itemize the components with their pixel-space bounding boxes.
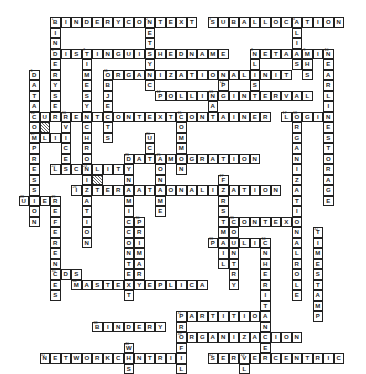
crossword-cell[interactable]: T [229,259,240,270]
crossword-cell[interactable]: L [239,238,250,249]
crossword-cell[interactable]: I26 [71,185,82,196]
crossword-cell[interactable]: A [187,185,198,196]
crossword-cell[interactable]: T [208,112,219,123]
crossword-cell[interactable]: Z [218,185,229,196]
crossword-cell[interactable]: M19 [29,133,40,144]
crossword-cell[interactable]: E [323,122,334,133]
crossword-cell[interactable]: A [29,80,40,91]
crossword-cell[interactable]: I [292,206,303,217]
crossword-cell[interactable]: O [82,154,93,165]
crossword-cell[interactable]: R [134,227,145,238]
crossword-cell[interactable]: T [92,112,103,123]
crossword-cell[interactable]: M [313,301,324,312]
crossword-cell[interactable]: S [50,290,61,301]
crossword-cell[interactable]: O [155,164,166,175]
crossword-cell[interactable]: O39 [176,332,187,343]
crossword-cell[interactable]: X [155,112,166,123]
crossword-cell[interactable]: N [292,353,303,364]
crossword-cell[interactable]: I [50,28,61,39]
crossword-cell[interactable]: A [82,280,93,291]
crossword-cell[interactable]: N [113,322,124,333]
crossword-cell[interactable]: N [260,322,271,333]
crossword-cell[interactable]: T32 [313,227,324,238]
crossword-cell[interactable]: I [218,248,229,259]
crossword-cell[interactable]: F27 [218,175,229,186]
crossword-cell[interactable]: C15 [176,112,187,123]
crossword-cell[interactable]: A [229,70,240,81]
crossword-cell[interactable]: L [40,133,51,144]
crossword-cell[interactable]: S [250,80,261,91]
crossword-cell[interactable]: I [50,133,61,144]
crossword-cell[interactable]: I [176,280,187,291]
crossword-cell[interactable]: A [218,112,229,123]
crossword-cell[interactable]: N8 [250,49,261,60]
crossword-cell[interactable]: A [229,185,240,196]
crossword-cell[interactable]: R [113,185,124,196]
crossword-cell[interactable]: N41 [40,353,51,364]
crossword-cell[interactable]: A25 [155,154,166,165]
crossword-cell[interactable]: E [145,28,156,39]
crossword-cell[interactable]: N [103,49,114,60]
crossword-cell[interactable]: N [292,227,303,238]
crossword-cell[interactable]: M [208,49,219,60]
crossword-cell[interactable]: L [197,185,208,196]
crossword-cell[interactable]: S [124,364,135,374]
crossword-cell[interactable]: A [134,259,145,270]
crossword-cell[interactable]: D [61,269,72,280]
crossword-cell[interactable]: I [197,70,208,81]
crossword-cell[interactable]: E [50,59,61,70]
crossword-cell[interactable]: I [61,17,72,28]
crossword-cell[interactable]: O [176,154,187,165]
crossword-cell[interactable]: R [155,353,166,364]
crossword-cell[interactable]: O [134,17,145,28]
crossword-cell[interactable]: U [229,238,240,249]
crossword-cell[interactable]: O [281,332,292,343]
crossword-cell[interactable]: I [134,238,145,249]
crossword-cell[interactable]: T [281,70,292,81]
crossword-cell[interactable]: S [29,185,40,196]
crossword-cell[interactable]: O [323,154,334,165]
crossword-cell[interactable]: I [292,38,303,49]
crossword-cell[interactable]: E [103,101,114,112]
crossword-cell[interactable]: E [218,49,229,60]
crossword-cell[interactable]: M36 [71,280,82,291]
crossword-cell[interactable]: N [323,112,334,123]
crossword-cell[interactable]: S [71,269,82,280]
crossword-cell[interactable]: T [92,185,103,196]
crossword-cell[interactable]: C14 [29,112,40,123]
crossword-cell[interactable]: C [124,17,135,28]
crossword-cell[interactable]: N [29,217,40,228]
crossword-cell[interactable]: H [124,353,135,364]
crossword-cell[interactable]: C [61,143,72,154]
crossword-cell[interactable]: I [313,112,324,123]
crossword-cell[interactable]: I [229,112,240,123]
crossword-cell[interactable]: Y [82,101,93,112]
crossword-cell[interactable]: E [82,80,93,91]
crossword-cell[interactable]: T [302,353,313,364]
crossword-cell[interactable]: N [292,332,303,343]
crossword-cell[interactable]: O18 [292,112,303,123]
crossword-cell[interactable]: E [323,59,334,70]
crossword-cell[interactable]: N [82,112,93,123]
crossword-cell[interactable]: O [208,70,219,81]
crossword-cell[interactable]: A [323,70,334,81]
crossword-cell[interactable]: M [166,154,177,165]
crossword-cell[interactable]: T [166,112,177,123]
crossword-cell[interactable]: E [124,269,135,280]
crossword-cell[interactable]: S3 [208,17,219,28]
crossword-cell[interactable]: T [145,353,156,364]
crossword-cell[interactable]: N [155,175,166,186]
crossword-cell[interactable]: C31 [229,217,240,228]
crossword-cell[interactable]: H [302,59,313,70]
crossword-cell[interactable]: R [292,122,303,133]
crossword-cell[interactable]: A [124,185,135,196]
crossword-cell[interactable]: E [250,353,261,364]
crossword-cell[interactable]: A4 [292,17,303,28]
crossword-cell[interactable]: B1 [50,17,61,28]
crossword-cell[interactable]: S [82,91,93,102]
crossword-cell[interactable]: S [103,133,114,144]
crossword-cell[interactable]: I [271,70,282,81]
crossword-cell[interactable]: R [229,353,240,364]
crossword-cell[interactable]: C [145,143,156,154]
crossword-cell[interactable]: O [250,311,261,322]
